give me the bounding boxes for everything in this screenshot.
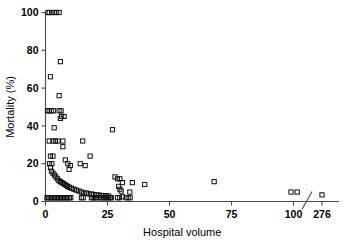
data-point bbox=[48, 196, 52, 200]
x-tick-label-50: 50 bbox=[164, 208, 176, 220]
x-tick-label-25: 25 bbox=[102, 208, 114, 220]
y-tick-label-100: 100 bbox=[21, 6, 39, 18]
data-point bbox=[48, 75, 52, 79]
y-tick-label-0: 0 bbox=[33, 195, 39, 207]
x-axis-title: Hospital volume bbox=[143, 226, 221, 238]
data-point bbox=[289, 190, 293, 194]
data-point bbox=[49, 196, 53, 200]
data-point bbox=[55, 196, 59, 200]
data-point bbox=[61, 145, 65, 149]
data-point bbox=[60, 196, 64, 200]
data-point bbox=[58, 60, 62, 64]
data-point bbox=[130, 181, 134, 185]
axis-break-mark bbox=[302, 192, 312, 210]
data-point bbox=[128, 190, 132, 194]
data-point bbox=[83, 163, 87, 167]
data-point bbox=[320, 193, 324, 197]
x-tick-label-0: 0 bbox=[43, 208, 49, 220]
data-point bbox=[52, 126, 56, 130]
data-point bbox=[69, 196, 73, 200]
y-tick-label-60: 60 bbox=[27, 82, 39, 94]
data-point bbox=[54, 196, 58, 200]
data-point bbox=[110, 128, 114, 132]
y-axis-title: Mortality (%) bbox=[4, 76, 16, 138]
x-tick-label-276: 276 bbox=[313, 208, 331, 220]
data-point-group bbox=[45, 10, 324, 199]
x-tick-label-75: 75 bbox=[226, 208, 238, 220]
data-point bbox=[66, 196, 70, 200]
data-point bbox=[52, 196, 56, 200]
data-point bbox=[78, 162, 82, 166]
data-point bbox=[61, 196, 65, 200]
data-point bbox=[88, 154, 92, 158]
data-point bbox=[46, 196, 50, 200]
y-tick-label-40: 40 bbox=[27, 120, 39, 132]
data-point bbox=[58, 196, 62, 200]
y-tick-label-20: 20 bbox=[27, 157, 39, 169]
data-point bbox=[61, 139, 65, 143]
data-point bbox=[57, 94, 61, 98]
data-point bbox=[67, 196, 71, 200]
x-tick-label-100: 100 bbox=[285, 208, 303, 220]
data-point bbox=[81, 139, 85, 143]
y-tick-label-80: 80 bbox=[27, 44, 39, 56]
scatter-plot-figure: 0204060801000255075100276Hospital volume… bbox=[0, 0, 344, 245]
data-point bbox=[63, 196, 67, 200]
data-point bbox=[64, 196, 68, 200]
data-point bbox=[295, 190, 299, 194]
data-point bbox=[143, 182, 147, 186]
plot-canvas: 0204060801000255075100276Hospital volume… bbox=[0, 0, 344, 245]
data-point bbox=[212, 180, 216, 184]
data-point bbox=[51, 196, 55, 200]
data-point bbox=[57, 196, 61, 200]
